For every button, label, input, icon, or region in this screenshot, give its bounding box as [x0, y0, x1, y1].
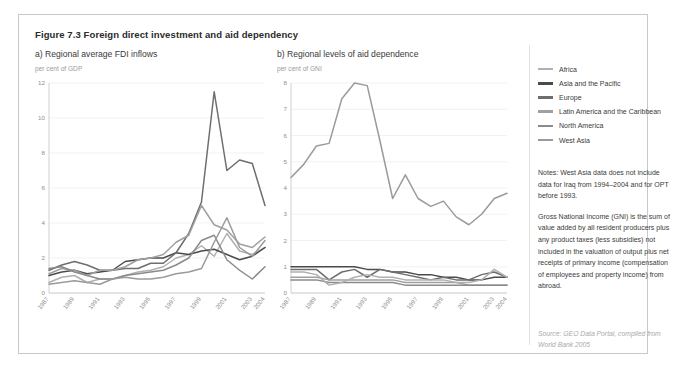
y-tick-label: 4 [284, 184, 288, 191]
notes-block: Notes: West Asia data does not include d… [538, 167, 670, 301]
x-tick-label: 1989 [61, 295, 75, 311]
y-tick-label: 12 [38, 79, 45, 86]
chart-panel-a: 0246810121987198919911993199519971999200… [27, 75, 273, 337]
x-tick-label: 1997 [163, 295, 177, 311]
chart-legend: AfricaAsia and the PacificEuropeLatin Am… [538, 62, 663, 147]
x-tick-label: 1987 [36, 295, 50, 311]
x-tick-label: 1999 [430, 295, 444, 311]
legend-item[interactable]: North America [538, 119, 663, 133]
legend-item-label: West Asia [559, 137, 590, 144]
y-tick-label: 6 [42, 184, 46, 191]
x-tick-label: 2001 [214, 295, 228, 311]
x-tick-label: 1993 [354, 295, 368, 311]
series-line [49, 92, 265, 271]
y-tick-label: 10 [38, 114, 45, 121]
legend-swatch-icon [538, 139, 553, 142]
legend-item-label: Latin America and the Caribbean [559, 108, 661, 115]
x-tick-label: 1987 [278, 295, 292, 311]
plot-svg: 0123456781987198919911993199519971999200… [269, 75, 515, 337]
x-tick-label: 1989 [303, 295, 317, 311]
y-tick-label: 8 [42, 149, 46, 156]
y-tick-label: 3 [284, 210, 288, 217]
y-tick-label: 1 [284, 263, 288, 270]
legend-swatch-icon [538, 82, 553, 85]
series-line [291, 83, 507, 225]
x-tick-label: 1993 [112, 295, 126, 311]
y-tick-label: 2 [42, 254, 46, 261]
x-tick-label: 2004 [494, 295, 508, 311]
x-tick-label: 1999 [188, 295, 202, 311]
legend-item[interactable]: Europe [538, 90, 663, 104]
legend-swatch-icon [538, 110, 553, 113]
source-note: Source: GEO Data Portal, compiled from W… [538, 329, 673, 350]
panel-b-unit: per cent of GNI [277, 65, 322, 72]
legend-swatch-icon [538, 96, 553, 99]
panel-divider [529, 45, 530, 345]
x-tick-label: 2003 [239, 295, 253, 311]
panel-a-title: a) Regional average FDI inflows [35, 49, 157, 59]
legend-swatch-icon [538, 125, 553, 128]
note-paragraph: Gross National Income (GNI) is the sum o… [538, 211, 670, 292]
x-tick-label: 2003 [481, 295, 495, 311]
legend-swatch-icon [538, 68, 553, 71]
x-tick-label: 2001 [456, 295, 470, 311]
figure-title: Figure 7.3 Foreign direct investment and… [35, 29, 298, 40]
x-tick-label: 1997 [405, 295, 419, 311]
x-tick-label: 1991 [329, 295, 343, 311]
legend-item-label: North America [559, 122, 603, 129]
x-tick-label: 1995 [379, 295, 393, 311]
y-tick-label: 6 [284, 132, 288, 139]
y-tick-label: 5 [284, 158, 288, 165]
x-tick-label: 1995 [137, 295, 151, 311]
legend-item-label: Asia and the Pacific [559, 80, 620, 87]
figure-frame: Figure 7.3 Foreign direct investment and… [18, 14, 648, 354]
legend-item[interactable]: Asia and the Pacific [538, 76, 663, 90]
y-tick-label: 4 [42, 219, 46, 226]
y-tick-label: 7 [284, 105, 288, 112]
x-tick-label: 2004 [252, 295, 266, 311]
legend-item[interactable]: Africa [538, 62, 663, 76]
legend-item[interactable]: Latin America and the Caribbean [538, 105, 663, 119]
legend-item[interactable]: West Asia [538, 133, 663, 147]
panel-b-title: b) Regional levels of aid dependence [277, 49, 418, 59]
y-tick-label: 2 [284, 237, 288, 244]
y-tick-label: 8 [284, 79, 288, 86]
plot-svg: 0246810121987198919911993199519971999200… [27, 75, 273, 337]
legend-item-label: Europe [559, 94, 582, 101]
legend-item-label: Africa [559, 66, 577, 73]
note-paragraph: Notes: West Asia data does not include d… [538, 167, 670, 202]
panel-a-unit: per cent of GDP [35, 65, 82, 72]
chart-panel-b: 0123456781987198919911993199519971999200… [269, 75, 515, 337]
x-tick-label: 1991 [87, 295, 101, 311]
